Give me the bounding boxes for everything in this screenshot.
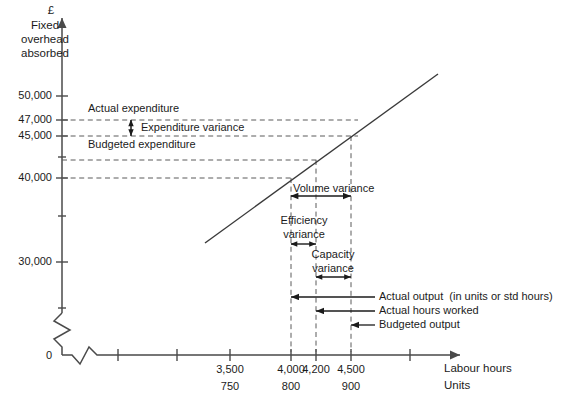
x-axis — [62, 347, 460, 364]
chart-vector-layer — [0, 0, 572, 403]
y-tick-label-50000: 50,000 — [0, 89, 52, 102]
fixed-overhead-variance-chart: £ Fixed overhead absorbed 50,000 47,000 … — [0, 0, 572, 403]
annotation-actual-output: Actual output (in units or std hours) — [379, 290, 553, 303]
annotation-actual-hours-worked: Actual hours worked — [379, 304, 479, 317]
x-axis-title-secondary: Units — [444, 379, 470, 392]
x-tick-label-hours-3500: 3,500 — [200, 363, 260, 376]
y-tick-label-45000: 45,000 — [0, 129, 52, 142]
annotation-efficiency-variance-line-2: variance — [268, 228, 340, 241]
y-axis-unit-symbol: £ — [18, 4, 84, 17]
annotation-budgeted-output: Budgeted output — [379, 318, 460, 331]
annotation-efficiency-variance-line-1: Efficiency — [268, 214, 340, 227]
annotation-actual-expenditure: Actual expenditure — [88, 102, 179, 115]
x-tick-label-units-900: 900 — [323, 380, 379, 393]
x-tick-label-units-800: 800 — [261, 380, 321, 393]
x-axis-arrowhead — [450, 351, 460, 360]
y-axis-title-line-3: absorbed — [6, 47, 84, 60]
x-axis-title: Labour hours — [444, 362, 512, 375]
y-tick-label-0: 0 — [0, 349, 52, 362]
y-tick-label-40000: 40,000 — [0, 171, 52, 184]
y-axis-title-line-1: Fixed — [6, 19, 84, 32]
annotation-volume-variance: Volume variance — [293, 182, 374, 195]
y-tick-label-30000: 30,000 — [0, 255, 52, 268]
y-axis-break-zigzag — [54, 313, 70, 355]
annotation-expenditure-variance: Expenditure variance — [141, 121, 244, 134]
y-axis-title-line-2: overhead — [6, 33, 84, 46]
annotation-capacity-variance-line-1: Capacity — [297, 248, 369, 261]
x-axis-break-zigzag — [62, 347, 460, 364]
annotation-capacity-variance-line-2: variance — [297, 262, 369, 275]
y-axis — [54, 18, 70, 355]
x-tick-label-hours-4500: 4,500 — [323, 363, 379, 376]
x-tick-label-units-750: 750 — [200, 380, 260, 393]
annotation-budgeted-expenditure: Budgeted expenditure — [88, 138, 196, 151]
callout-leader-lines — [291, 297, 375, 325]
y-tick-label-47000: 47,000 — [0, 113, 52, 126]
